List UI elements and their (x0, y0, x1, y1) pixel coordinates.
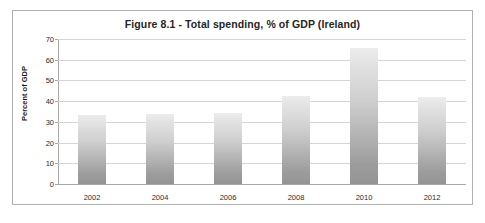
gridline (58, 184, 466, 185)
bar (146, 114, 174, 184)
y-axis-tick-mark (55, 143, 58, 144)
gridline (58, 143, 466, 144)
x-axis-tick-label: 2008 (288, 193, 305, 202)
y-axis-tick-label: 60 (46, 56, 54, 65)
bar (350, 48, 378, 184)
bar (78, 115, 106, 184)
y-axis-title: Percent of GDP (20, 59, 29, 129)
chart-container: Figure 8.1 - Total spending, % of GDP (I… (12, 10, 473, 205)
y-axis-tick-label: 10 (46, 159, 54, 168)
y-axis-tick-mark (55, 80, 58, 81)
chart-title: Figure 8.1 - Total spending, % of GDP (I… (13, 18, 472, 30)
y-axis-tick-mark (55, 122, 58, 123)
x-axis-tick-label: 2010 (356, 193, 373, 202)
gridline (58, 122, 466, 123)
gridline (58, 101, 466, 102)
gridline (58, 39, 466, 40)
plot-area: 010203040506070 200220042006200820102012 (58, 39, 466, 184)
gridline (58, 60, 466, 61)
y-axis-tick-mark (55, 184, 58, 185)
x-axis-tick-label: 2004 (152, 193, 169, 202)
y-axis-tick-label: 30 (46, 118, 54, 127)
x-axis-tick-label: 2002 (84, 193, 101, 202)
y-axis-tick-label: 50 (46, 76, 54, 85)
gridline (58, 163, 466, 164)
y-axis-tick-mark (55, 101, 58, 102)
gridline (58, 80, 466, 81)
x-axis-tick-label: 2012 (424, 193, 441, 202)
y-axis-tick-mark (55, 60, 58, 61)
y-axis-tick-label: 70 (46, 35, 54, 44)
bar (214, 113, 242, 184)
bar (282, 96, 310, 184)
y-axis-tick-label: 0 (50, 180, 54, 189)
x-axis-tick-label: 2006 (220, 193, 237, 202)
y-axis-tick-mark (55, 163, 58, 164)
y-axis-tick-label: 20 (46, 139, 54, 148)
y-axis-tick-mark (55, 39, 58, 40)
bar (418, 97, 446, 184)
y-axis-tick-label: 40 (46, 97, 54, 106)
